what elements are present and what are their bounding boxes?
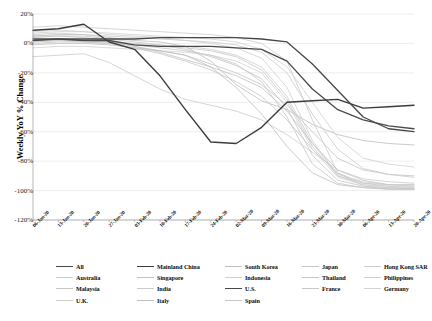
- legend-item[interactable]: Italy: [137, 295, 225, 306]
- x-axis-tick-label: 27-Jan-20: [107, 209, 126, 228]
- legend-line-swatch: [225, 277, 242, 278]
- legend-item[interactable]: France: [302, 283, 364, 294]
- legend-item[interactable]: All: [56, 261, 137, 272]
- legend-line-swatch: [137, 266, 154, 267]
- legend-item[interactable]: Australia: [56, 272, 137, 283]
- legend-label: Germany: [384, 285, 409, 292]
- legend-label: Australia: [76, 274, 100, 281]
- legend-label: Singapore: [157, 274, 183, 281]
- legend-label: Malaysia: [76, 285, 100, 292]
- legend-item[interactable]: U.S.: [225, 283, 302, 294]
- legend-label: Indonesia: [245, 274, 270, 281]
- legend-label: U.S.: [245, 285, 256, 292]
- legend-line-swatch: [302, 277, 319, 278]
- x-axis-tick-label: 16-Mar-20: [285, 208, 305, 228]
- legend-item[interactable]: Thailand: [302, 272, 364, 283]
- legend-item[interactable]: Philippines: [364, 272, 426, 283]
- legend-label: South Korea: [245, 263, 278, 270]
- x-axis-tick-label: 20-Apr-20: [412, 209, 432, 229]
- x-axis-tick-label: 02-Mar-20: [234, 208, 254, 228]
- legend-line-swatch: [302, 288, 319, 289]
- legend-item[interactable]: Malaysia: [56, 283, 137, 294]
- legend-label: Japan: [322, 263, 338, 270]
- x-axis-tick-label: 06-Apr-20: [361, 209, 381, 229]
- legend-label: India: [157, 285, 171, 292]
- legend-item[interactable]: Indonesia: [225, 272, 302, 283]
- legend-line-swatch: [225, 266, 242, 267]
- legend-item[interactable]: South Korea: [225, 261, 302, 272]
- x-axis-tick-label: 23-Mar-20: [310, 208, 330, 228]
- legend-item[interactable]: Spain: [225, 295, 302, 306]
- legend-label: Spain: [245, 297, 260, 304]
- legend-line-swatch: [364, 266, 381, 267]
- legend-line-swatch: [56, 288, 73, 289]
- legend-label: Mainland China: [157, 263, 200, 270]
- x-axis-tick-label: 09-Mar-20: [260, 208, 280, 228]
- legend-label: All: [76, 263, 84, 270]
- x-axis-tick-label: 10-Feb-20: [158, 209, 177, 228]
- legend-item[interactable]: Singapore: [137, 272, 225, 283]
- legend-label: France: [322, 285, 340, 292]
- legend-label: Hong Kong SAR: [384, 263, 428, 270]
- legend-item[interactable]: Mainland China: [137, 261, 225, 272]
- legend-label: Italy: [157, 297, 169, 304]
- x-axis-tick-label: 24-Feb-20: [209, 209, 228, 228]
- legend-line-swatch: [137, 288, 154, 289]
- legend-line-swatch: [225, 288, 242, 289]
- x-axis-tick-label: 13-Apr-20: [387, 209, 407, 229]
- x-axis-tick-label: 20-Jan-20: [82, 209, 101, 228]
- x-axis-tick-label: 03-Feb-20: [133, 209, 152, 228]
- legend-line-swatch: [364, 288, 381, 289]
- chart-legend: AllMainland ChinaSouth KoreaJapanHong Ko…: [56, 261, 426, 306]
- legend-line-swatch: [137, 300, 154, 301]
- x-axis-tick-label: 30-Mar-20: [336, 208, 356, 228]
- legend-line-swatch: [137, 277, 154, 278]
- legend-item[interactable]: India: [137, 283, 225, 294]
- legend-line-swatch: [225, 300, 242, 301]
- legend-item[interactable]: Hong Kong SAR: [364, 261, 426, 272]
- legend-label: Philippines: [384, 274, 413, 281]
- x-axis-tick-label: 06-Jan-20: [31, 209, 50, 228]
- legend-line-swatch: [56, 277, 73, 278]
- legend-line-swatch: [302, 266, 319, 267]
- legend-line-swatch: [56, 266, 73, 267]
- legend-item[interactable]: Japan: [302, 261, 364, 272]
- legend-line-swatch: [56, 300, 73, 301]
- legend-line-swatch: [364, 277, 381, 278]
- x-axis-tick-label: 13-Jan-20: [56, 209, 75, 228]
- x-axis-tick-label: 17-Feb-20: [183, 209, 202, 228]
- legend-label: U.K.: [76, 297, 88, 304]
- legend-item[interactable]: U.K.: [56, 295, 137, 306]
- legend-label: Thailand: [322, 274, 346, 281]
- legend-item[interactable]: Germany: [364, 283, 426, 294]
